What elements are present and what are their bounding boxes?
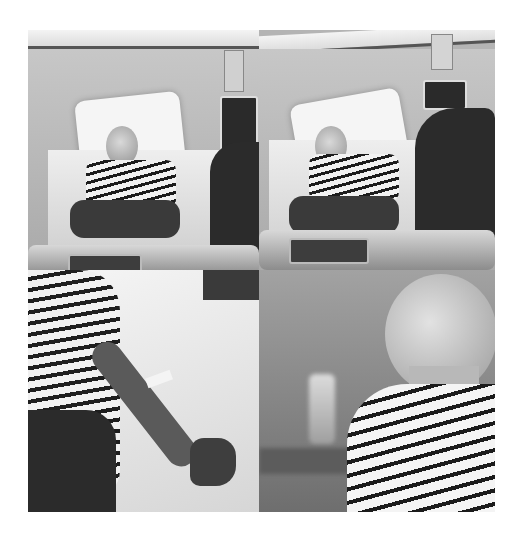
striped-top bbox=[347, 384, 495, 512]
photo-collage bbox=[28, 30, 495, 512]
hand bbox=[190, 438, 236, 486]
bed-rail bbox=[28, 245, 259, 270]
visitor bbox=[210, 142, 259, 262]
striped-top bbox=[309, 154, 399, 202]
bed-control-panel bbox=[68, 254, 142, 270]
bed-control-panel bbox=[289, 238, 369, 264]
photo-arm-with-iv bbox=[28, 270, 259, 512]
legs bbox=[70, 200, 180, 238]
iv-bag bbox=[224, 50, 244, 92]
legs bbox=[28, 410, 116, 512]
photo-patient-in-bed-with-visitor bbox=[28, 30, 259, 270]
photo-patient-and-visitor bbox=[259, 30, 495, 270]
wall-rail bbox=[28, 30, 259, 49]
iv-bag bbox=[431, 34, 453, 70]
background-shadow bbox=[203, 270, 259, 300]
water-bottle bbox=[309, 374, 335, 444]
legs bbox=[289, 196, 399, 234]
monitor bbox=[423, 80, 467, 110]
photo-woman-profile bbox=[259, 270, 495, 512]
